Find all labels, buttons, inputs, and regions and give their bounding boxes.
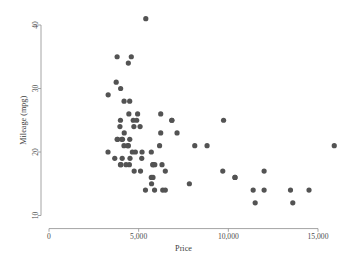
axes-group xyxy=(38,25,318,232)
data-point xyxy=(139,156,144,161)
scatter-plot-canvas: 1020304005,00010,00015,000PriceMileage (… xyxy=(0,0,360,267)
data-point xyxy=(262,188,267,193)
data-point xyxy=(158,130,163,135)
data-point xyxy=(262,168,267,173)
data-point xyxy=(253,200,258,205)
data-point xyxy=(232,175,237,180)
data-point xyxy=(121,99,126,104)
data-point xyxy=(115,54,120,59)
data-point xyxy=(192,143,197,148)
data-point xyxy=(126,61,131,66)
data-point xyxy=(163,188,168,193)
data-point xyxy=(123,162,128,167)
data-point xyxy=(159,162,164,167)
data-point xyxy=(290,200,295,205)
x-tick-label-15000: 15,000 xyxy=(308,232,329,241)
data-point xyxy=(118,162,123,167)
x-tick-label-5000: 5,000 xyxy=(130,232,147,241)
data-point xyxy=(187,181,192,186)
data-point xyxy=(118,118,123,123)
data-point xyxy=(132,168,137,173)
data-point xyxy=(158,111,163,116)
data-point xyxy=(149,181,154,186)
data-point xyxy=(127,156,132,161)
data-point xyxy=(174,130,179,135)
data-point xyxy=(126,111,131,116)
axis-labels-group: 1020304005,00010,00015,000PriceMileage (… xyxy=(19,21,329,253)
data-point xyxy=(143,188,148,193)
data-point xyxy=(163,168,168,173)
data-point xyxy=(119,137,124,142)
data-point xyxy=(150,175,155,180)
data-point xyxy=(306,188,311,193)
data-point xyxy=(112,156,117,161)
y-tick-label-10: 10 xyxy=(31,212,40,220)
data-point xyxy=(120,156,125,161)
data-point xyxy=(220,168,225,173)
chart-figure: 1020304005,00010,00015,000PriceMileage (… xyxy=(0,0,360,267)
data-point xyxy=(138,168,143,173)
data-point xyxy=(131,124,136,129)
x-tick-label-0: 0 xyxy=(47,232,51,241)
data-point xyxy=(157,143,162,148)
data-point xyxy=(105,149,110,154)
data-point xyxy=(149,149,154,154)
data-point xyxy=(221,118,226,123)
data-point xyxy=(131,118,136,123)
x-tick-label-10000: 10,000 xyxy=(218,232,239,241)
data-point xyxy=(118,86,123,91)
y-tick-label-40: 40 xyxy=(31,21,40,29)
data-point xyxy=(135,111,140,116)
x-axis-title: Price xyxy=(175,244,192,253)
data-point xyxy=(288,188,293,193)
data-point xyxy=(332,143,337,148)
data-point xyxy=(127,99,132,104)
data-point xyxy=(152,162,157,167)
data-point xyxy=(106,92,111,97)
data-point xyxy=(143,16,148,21)
data-point xyxy=(126,143,131,148)
data-point xyxy=(137,124,142,129)
data-point xyxy=(169,118,174,123)
data-point xyxy=(204,143,209,148)
data-point xyxy=(114,80,119,85)
data-point xyxy=(122,130,127,135)
data-point xyxy=(139,149,144,154)
data-point xyxy=(251,188,256,193)
data-point xyxy=(152,188,157,193)
data-point xyxy=(117,124,122,129)
y-tick-label-30: 30 xyxy=(31,85,40,93)
data-points-group xyxy=(105,16,336,205)
y-axis-title: Mileage (mpg) xyxy=(19,96,28,145)
data-point xyxy=(127,137,132,142)
y-tick-label-20: 20 xyxy=(31,148,40,156)
data-point xyxy=(129,54,134,59)
data-point xyxy=(130,149,135,154)
